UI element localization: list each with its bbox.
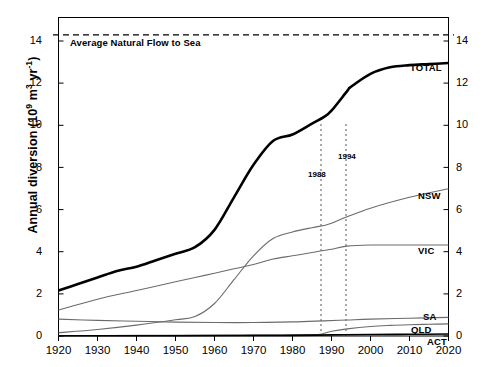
y-tick-label-4: 4 (20, 245, 42, 257)
x-axis-ticks (59, 336, 449, 341)
series-label-act: ACT (427, 336, 447, 347)
series-line-nsw (59, 189, 449, 333)
x-tick-label-1960: 1960 (195, 344, 235, 356)
y-tick-label-right-12: 12 (456, 76, 468, 88)
x-tick-label-1970: 1970 (234, 344, 274, 356)
y-tick-label-right-4: 4 (456, 245, 462, 257)
y-tick-label-right-14: 14 (456, 34, 468, 46)
x-tick-label-1920: 1920 (39, 344, 79, 356)
y-tick-label-12: 12 (20, 76, 42, 88)
x-tick-label-1990: 1990 (312, 344, 352, 356)
chart-figure: Annual diversion (109 m3 yr-1) (0, 0, 486, 367)
y-tick-label-8: 8 (20, 161, 42, 173)
x-tick-label-2010: 2010 (390, 344, 430, 356)
series-label-sa: SA (423, 311, 437, 322)
series-label-total: TOTAL (410, 62, 442, 73)
annotation-label-1988: 1988 (308, 170, 326, 179)
y-tick-label-right-0: 0 (456, 329, 462, 341)
y-tick-label-2: 2 (20, 287, 42, 299)
y-tick-label-right-10: 10 (456, 118, 468, 130)
y-tick-label-right-6: 6 (456, 203, 462, 215)
series-line-sa (59, 317, 449, 322)
y-tick-label-0: 0 (20, 329, 42, 341)
x-tick-label-2000: 2000 (351, 344, 391, 356)
y-tick-label-14: 14 (20, 34, 42, 46)
series-label-nsw: NSW (418, 190, 441, 201)
series-label-qld: QLD (411, 324, 432, 335)
plot-frame (59, 18, 449, 337)
y-tick-label-6: 6 (20, 203, 42, 215)
x-tick-label-1950: 1950 (156, 344, 196, 356)
x-tick-label-1940: 1940 (117, 344, 157, 356)
chart-canvas (0, 0, 486, 367)
series-label-vic: VIC (418, 245, 434, 256)
y-axis-ticks-left (59, 41, 64, 336)
y-tick-label-right-8: 8 (456, 161, 462, 173)
x-tick-label-1980: 1980 (273, 344, 313, 356)
annotation-label-1994: 1994 (338, 152, 356, 161)
reference-line-label: Average Natural Flow to Sea (70, 37, 201, 48)
y-tick-label-10: 10 (20, 118, 42, 130)
y-tick-label-right-2: 2 (456, 287, 462, 299)
x-tick-label-1930: 1930 (78, 344, 118, 356)
series-line-vic (59, 245, 449, 310)
